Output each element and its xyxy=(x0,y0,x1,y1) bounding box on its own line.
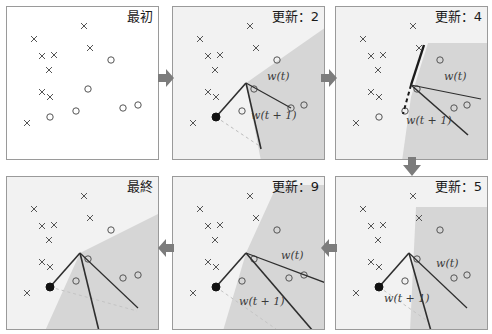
panel-final: 最終 xyxy=(6,176,159,330)
panel-title: 更新：9 xyxy=(272,179,319,194)
highlighted-point xyxy=(212,283,220,291)
panel-update-2-plot: w(t) w(t + 1) xyxy=(173,7,325,160)
arrow-right-initial-to-update2 xyxy=(158,67,174,89)
panel-update-9-plot: w(t) w(t + 1) xyxy=(173,177,325,330)
panel-update-9: w(t) w(t + 1) 更新：9 xyxy=(172,176,325,330)
panel-title: 更新：4 xyxy=(435,9,482,24)
panel-update-2: w(t) w(t + 1) 更新：2 xyxy=(172,6,325,160)
label-w-t-plus-1: w(t + 1) xyxy=(239,295,285,308)
label-w-t-plus-1: w(t + 1) xyxy=(406,114,452,127)
panel-update-4-plot: w(t) w(t + 1) xyxy=(336,7,488,160)
arrow-down-update4-to-update5 xyxy=(401,157,423,177)
label-w-t: w(t) xyxy=(281,249,303,262)
panel-initial-plot xyxy=(7,7,159,160)
arrow-left-update5-to-update9 xyxy=(321,237,337,259)
panel-update-5-plot: w(t) w(t + 1) xyxy=(336,177,488,330)
panel-initial: 最初 xyxy=(6,6,159,160)
panel-update-5: w(t) w(t + 1) 更新：5 xyxy=(335,176,488,330)
highlighted-point xyxy=(46,283,54,291)
panel-title: 最終 xyxy=(127,179,153,194)
panel-title: 最初 xyxy=(127,9,153,24)
highlighted-point xyxy=(375,283,383,291)
panel-title: 更新：2 xyxy=(272,9,319,24)
label-w-t: w(t) xyxy=(267,70,289,83)
arrow-right-update2-to-update4 xyxy=(321,67,337,89)
highlighted-point xyxy=(212,113,220,121)
panel-title: 更新：5 xyxy=(435,179,482,194)
perceptron-progression-figure: 最初 xyxy=(0,0,492,334)
arrow-left-update9-to-final xyxy=(158,237,174,259)
panel-final-plot xyxy=(7,177,159,330)
label-w-t: w(t) xyxy=(436,257,458,270)
label-w-t: w(t) xyxy=(444,70,466,83)
panel-update-4: w(t) w(t + 1) 更新：4 xyxy=(335,6,488,160)
label-w-t-plus-1: w(t + 1) xyxy=(384,292,430,305)
label-w-t-plus-1: w(t + 1) xyxy=(251,109,297,122)
